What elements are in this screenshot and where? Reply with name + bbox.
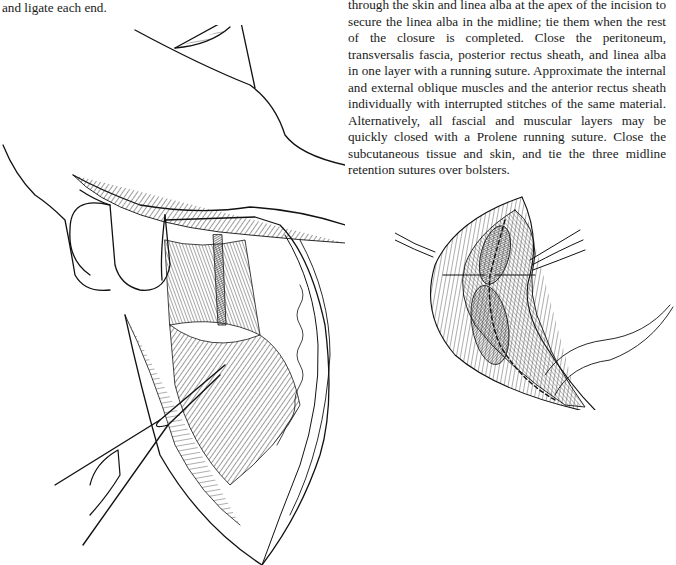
incision-retraction-drawing	[0, 25, 345, 565]
left-column-text: and ligate each end.	[2, 0, 252, 17]
right-column-paragraph: through the skin and linea alba at the a…	[348, 0, 666, 179]
layered-closure-drawing	[395, 195, 676, 410]
right-surgical-illustration	[395, 195, 676, 410]
left-surgical-illustration	[0, 25, 345, 565]
